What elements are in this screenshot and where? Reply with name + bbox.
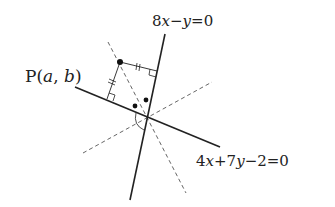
label-point-p: P(a, b) <box>25 66 82 86</box>
diagram-canvas: 8x−y=0 4x+7y−2=0 P(a, b) <box>0 0 335 207</box>
angle-dot-1 <box>144 98 149 103</box>
line-4x-7y-2 <box>75 87 220 147</box>
perpendicular-to-line1 <box>120 62 157 71</box>
label-line2: 4x+7y−2=0 <box>196 152 289 170</box>
equal-ticks-2 <box>108 79 116 85</box>
equal-ticks-1 <box>136 63 140 71</box>
label-line1: 8x−y=0 <box>152 12 213 30</box>
angle-dot-2 <box>133 104 138 109</box>
point-p <box>117 59 123 65</box>
right-angle-mark-2 <box>109 93 115 101</box>
